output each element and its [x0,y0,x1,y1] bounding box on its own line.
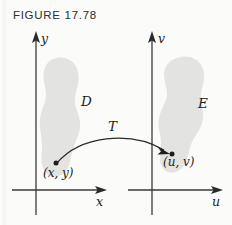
figure-container: FIGURE 17.78 y x v u D E T (x, y) (u, [0,0,232,225]
point-uv-label: (u, v) [163,155,195,169]
region-d-label: D [81,93,92,109]
point-xy-label: (x, y) [43,166,74,180]
right-v-axis-label: v [158,31,165,46]
point-xy-marker [54,161,59,166]
transform-label: T [108,118,117,134]
right-u-axis-label: u [212,194,220,209]
left-x-axis-label: x [96,194,103,209]
figure-graphic [0,0,232,225]
region-d-shape [40,58,80,177]
region-e-label: E [198,95,208,111]
left-y-axis-label: y [41,31,48,46]
